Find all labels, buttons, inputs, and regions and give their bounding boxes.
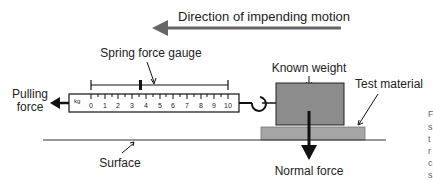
svg-text:9: 9: [212, 102, 216, 109]
gauge-scale-bar: [91, 80, 228, 90]
svg-text:8: 8: [199, 102, 203, 109]
svg-text:10: 10: [224, 102, 232, 109]
svg-text:2: 2: [116, 102, 120, 109]
svg-text:3: 3: [130, 102, 134, 109]
normal-force-label: Normal force: [275, 164, 344, 178]
svg-text:r: r: [428, 146, 431, 156]
pulling-force-label-line2: force: [17, 100, 44, 114]
gauge-indicator: [139, 80, 142, 90]
svg-text:1: 1: [103, 102, 107, 109]
svg-text:s: s: [428, 122, 433, 132]
svg-text:s: s: [428, 170, 433, 180]
svg-text:F: F: [428, 109, 433, 119]
svg-text:5: 5: [158, 102, 162, 109]
surface-label: Surface: [99, 156, 141, 170]
hook-icon: [239, 97, 276, 111]
gauge-label: Spring force gauge: [100, 46, 202, 60]
material-label: Test material: [355, 77, 423, 91]
material-pointer-arrow-icon: [358, 94, 378, 125]
surface-pointer-arrow-icon: [122, 142, 134, 153]
svg-text:6: 6: [171, 102, 175, 109]
weight-label: Known weight: [272, 61, 347, 75]
motion-label: Direction of impending motion: [178, 9, 350, 24]
svg-text:c: c: [428, 158, 433, 168]
svg-text:7: 7: [185, 102, 189, 109]
svg-text:0: 0: [89, 102, 93, 109]
svg-text:t: t: [428, 134, 431, 144]
friction-test-diagram: Direction of impending motion Spring for…: [0, 0, 433, 181]
test-material-slab: [261, 127, 365, 140]
cropped-side-text: F s t r c s: [428, 109, 433, 180]
gauge-unit: kg: [74, 98, 80, 104]
gauge-pointer-arrow-icon: [147, 62, 156, 84]
pulling-force-arrow-icon: [50, 97, 69, 109]
pulling-force-label-line1: Pulling: [12, 87, 48, 101]
svg-text:4: 4: [144, 102, 148, 109]
